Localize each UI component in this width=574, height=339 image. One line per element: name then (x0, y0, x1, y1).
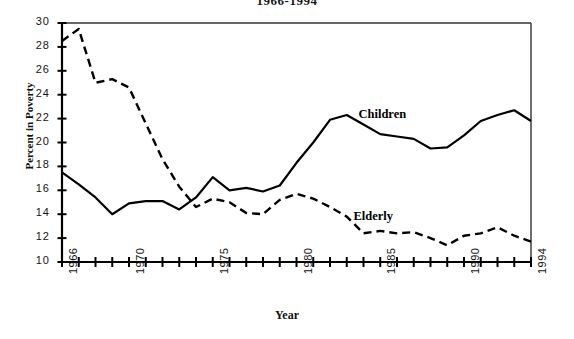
axes (58, 23, 532, 267)
series-label-elderly: Elderly (353, 209, 393, 224)
y-tick-label: 16 (12, 182, 50, 194)
x-tick-label: 1994 (536, 248, 548, 274)
x-tick-label: 1980 (302, 248, 314, 274)
x-tick-label: 1970 (134, 248, 146, 274)
data-series (62, 29, 531, 245)
y-tick-label: 20 (12, 135, 50, 147)
y-tick-label: 22 (12, 111, 50, 123)
y-tick-label: 24 (12, 87, 50, 99)
y-tick-label: 18 (12, 158, 50, 170)
y-tick-label: 28 (12, 39, 50, 51)
chart-title: 1966-1994 (0, 0, 574, 9)
y-tick-label: 10 (12, 254, 50, 266)
x-axis-label: Year (0, 308, 574, 323)
y-tick-label: 14 (12, 206, 50, 218)
y-tick-label: 26 (12, 63, 50, 75)
x-tick-label: 1975 (218, 248, 230, 274)
x-tick-label: 1966 (67, 248, 79, 274)
series-label-children: Children (358, 107, 406, 122)
x-tick-label: 1985 (385, 248, 397, 274)
series-line-children (62, 110, 531, 214)
plot-area (0, 0, 574, 339)
y-tick-label: 30 (12, 15, 50, 27)
x-tick-label: 1990 (469, 248, 481, 274)
y-tick-label: 12 (12, 230, 50, 242)
y-axis-label: Percent in Poverty (23, 61, 35, 191)
poverty-rate-chart: 1966-1994 Percent in Poverty Year 101214… (0, 0, 574, 339)
